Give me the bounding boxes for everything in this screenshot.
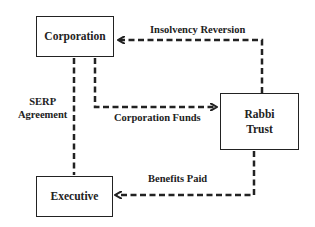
- corporation-node: Corporation: [36, 16, 114, 57]
- executive-label: Executive: [51, 189, 99, 203]
- serp-label-line1: SERP: [18, 96, 67, 109]
- rabbi-trust-node: Rabbi Trust: [220, 93, 299, 150]
- corporation-funds-label: Corporation Funds: [114, 112, 201, 125]
- executive-node: Executive: [36, 176, 113, 217]
- serp-label-line2: Agreement: [18, 109, 67, 122]
- rabbi-trust-label-line1: Rabbi: [244, 107, 274, 121]
- rabbi-trust-label-line2: Trust: [246, 122, 273, 136]
- benefits-paid-label: Benefits Paid: [148, 173, 207, 186]
- corporation-label: Corporation: [44, 29, 105, 43]
- insolvency-reversion-arrow: [119, 40, 262, 93]
- corporation-funds-arrow: [95, 58, 216, 107]
- serp-agreement-label: SERP Agreement: [18, 96, 67, 121]
- insolvency-reversion-label: Insolvency Reversion: [150, 24, 245, 37]
